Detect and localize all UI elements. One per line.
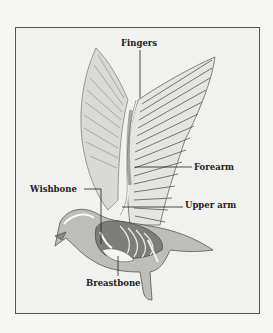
label-upper-arm: Upper arm bbox=[185, 200, 236, 210]
label-forearm: Forearm bbox=[194, 162, 234, 172]
label-fingers: Fingers bbox=[121, 38, 157, 48]
label-wishbone: Wishbone bbox=[30, 184, 77, 194]
label-breastbone: Breastbone bbox=[86, 278, 141, 288]
far-wing bbox=[81, 48, 128, 210]
